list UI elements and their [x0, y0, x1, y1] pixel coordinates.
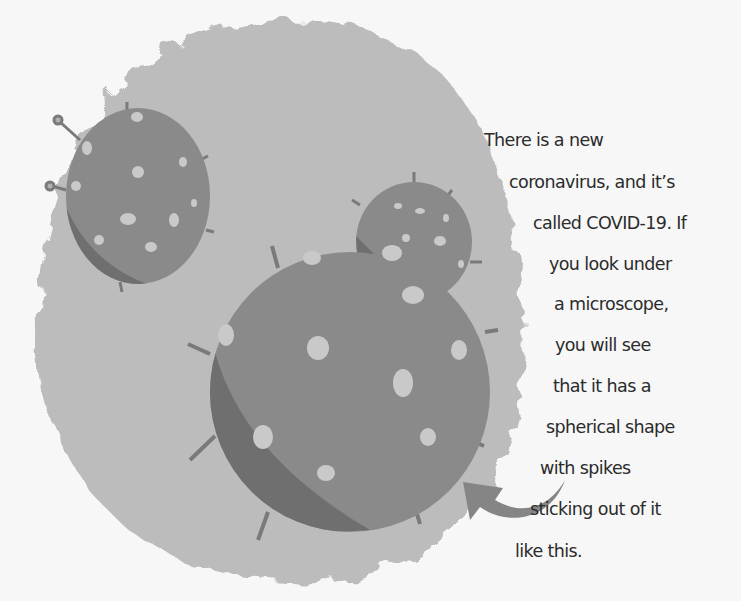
- text-line: coronavirus, and it’s: [509, 172, 675, 192]
- text-line: you will see: [555, 335, 651, 355]
- text-line: sticking out of it: [530, 499, 661, 519]
- text-line: spherical shape: [546, 417, 675, 437]
- text-line: that it has a: [553, 376, 651, 396]
- text-line: with spikes: [540, 458, 631, 478]
- text-line: There is a new: [484, 130, 603, 150]
- text-line: like this.: [515, 541, 582, 561]
- text-line: a microscope,: [554, 294, 668, 314]
- text-line: you look under: [549, 254, 672, 274]
- text-line: called COVID-19. If: [533, 213, 686, 233]
